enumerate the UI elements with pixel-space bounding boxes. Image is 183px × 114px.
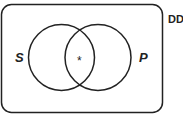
- set-p-label: P: [139, 50, 148, 65]
- intersection-mark: *: [77, 54, 82, 68]
- venn-diagram: S * P DD: [0, 0, 183, 114]
- set-s-label: S: [15, 50, 24, 65]
- universe-label: DD: [168, 13, 183, 25]
- set-s-circle: [29, 25, 95, 91]
- set-p-circle: [65, 25, 131, 91]
